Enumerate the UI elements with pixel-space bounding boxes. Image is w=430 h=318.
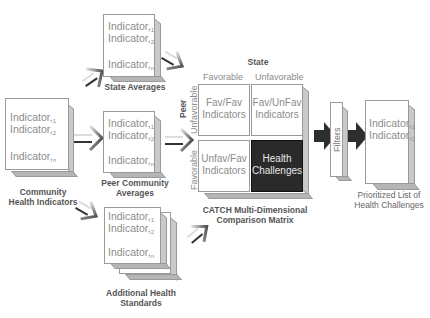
indicator-2: Indicator,2 xyxy=(108,129,154,145)
matrix-top-axis-title: State xyxy=(238,57,278,67)
prioritized-label: Prioritized List of Health Challenges xyxy=(348,190,430,210)
col-header-favorable: Favorable xyxy=(203,72,243,82)
matrix-cell-fav-fav: Fav/FavIndicators xyxy=(198,84,250,136)
indicator-n: Indicator,n xyxy=(10,150,56,166)
matrix-cell-unfav-fav: Unfav/FavIndicators xyxy=(198,140,250,192)
arrow-icon xyxy=(158,47,187,75)
community-label: Community Health Indicators xyxy=(0,187,86,207)
indicator-2: Indicator,2 xyxy=(10,123,56,139)
arrow-icon xyxy=(165,129,192,151)
filters-label: Filters xyxy=(332,128,342,153)
matrix-cell-health-challenges: HealthChallenges xyxy=(251,140,303,192)
additional-standards-label: Additional Health Standards xyxy=(102,288,180,308)
indicator-2: Indicator,2 xyxy=(108,32,154,48)
matrix-label: CATCH Multi-Dimensional Comparison Matri… xyxy=(196,205,314,225)
arrow-icon xyxy=(72,126,102,150)
matrix-side-axis-title: Peer xyxy=(178,100,188,118)
state-averages-label: State Averages xyxy=(100,82,170,92)
indicator-n: Indicator,n xyxy=(108,246,154,262)
peer-averages-label: Peer Community Averages xyxy=(96,178,174,198)
indicator-2: Indicator,2 xyxy=(108,222,154,238)
matrix-cell-fav-unfav: Fav/UnFavIndicators xyxy=(251,84,303,136)
indicator-n: Indicator,n xyxy=(108,154,154,170)
indicator-2: Indicator,2 xyxy=(369,129,415,145)
col-header-unfavorable: Unfavorable xyxy=(255,72,304,82)
indicator-n: Indicator,n xyxy=(108,58,154,74)
